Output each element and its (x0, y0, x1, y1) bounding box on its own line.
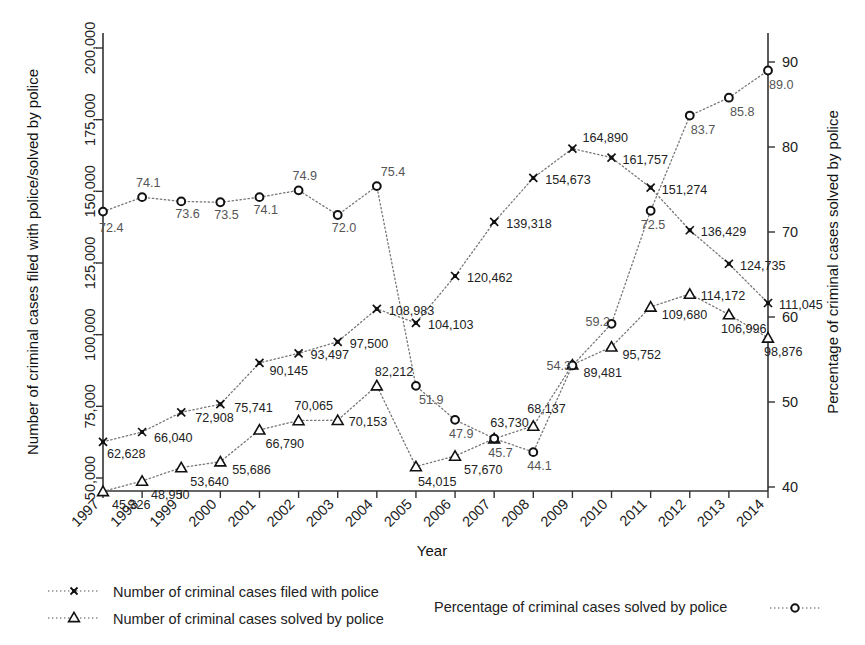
data-point-label: 72,908 (195, 411, 234, 425)
data-point-x-marker (649, 186, 653, 190)
y-tick-label-right: 80 (782, 139, 798, 155)
data-point-label: 161,757 (623, 153, 669, 167)
x-tick-label: 2008 (498, 496, 532, 530)
data-point-x-marker (766, 301, 770, 305)
legend-item-percentage[interactable]: Percentage of criminal cases solved by p… (434, 599, 820, 615)
x-tick-label: 2001 (224, 496, 258, 530)
data-point-label: 57,670 (464, 463, 503, 477)
data-point-circle-marker (138, 193, 146, 201)
data-point-label: 62,628 (107, 447, 146, 461)
data-point-circle-marker (412, 382, 420, 390)
data-point-label: 97,500 (350, 337, 389, 351)
legend-item-filed[interactable]: Number of criminal cases filed with poli… (48, 584, 379, 600)
y-axis-right-title: Percentage of criminal cases solved by p… (824, 110, 841, 414)
data-point-label: 73.6 (175, 207, 200, 221)
data-point-triangle-marker (450, 451, 461, 460)
data-point-label: 63,730 (490, 416, 529, 430)
y-tick-label-left: 100,000 (82, 308, 98, 360)
data-point-label: 48,950 (151, 488, 190, 502)
data-point-x-marker (492, 220, 496, 224)
y-tick-label-right: 40 (782, 479, 798, 495)
data-point-label: 51.9 (419, 393, 444, 407)
data-point-label: 45.7 (488, 446, 513, 460)
data-point-x-marker (257, 361, 261, 365)
data-point-label: 90,145 (269, 364, 308, 378)
data-point-circle-marker (725, 94, 733, 102)
data-point-triangle-marker (606, 342, 617, 351)
data-point-label: 95,752 (623, 348, 662, 362)
data-point-label: 59.2 (586, 315, 611, 329)
data-point-x-marker (140, 430, 144, 434)
data-point-label: 98,876 (764, 345, 803, 359)
data-point-circle-marker (373, 182, 381, 190)
data-point-circle-marker (256, 193, 264, 201)
data-point-label: 75,741 (234, 401, 273, 415)
data-point-label: 104,103 (428, 318, 474, 332)
data-point-circle-marker (764, 67, 772, 75)
data-point-x-marker (531, 176, 535, 180)
y-tick-label-left: 150,000 (82, 165, 98, 217)
data-point-label: 68,137 (527, 402, 566, 416)
data-point-label: 72.4 (99, 221, 124, 235)
y-tick-label-right: 90 (782, 54, 798, 70)
y-tick-label-left: 75,000 (82, 384, 98, 428)
data-point-x-marker (453, 274, 457, 278)
x-tick-label: 2009 (537, 496, 571, 530)
data-point-x-marker (297, 351, 301, 355)
x-tick-label: 2013 (694, 496, 728, 530)
data-point-x-marker (375, 307, 379, 311)
data-point-circle-marker (686, 112, 694, 120)
data-point-label: 72.0 (332, 221, 357, 235)
data-point-label: 45,326 (112, 498, 151, 512)
data-point-circle-marker (451, 416, 459, 424)
data-point-label: 53,640 (190, 475, 229, 489)
x-tick-label: 2012 (655, 496, 689, 530)
data-point-x-marker (336, 340, 340, 344)
data-point-triangle-marker (215, 457, 226, 466)
data-point-label: 74.9 (293, 169, 318, 183)
data-point-x-marker (218, 402, 222, 406)
triangle-marker-icon (69, 612, 80, 621)
y-tick-label-left: 200,000 (82, 22, 98, 74)
data-point-x-marker (688, 228, 692, 232)
legend: Number of criminal cases filed with poli… (48, 584, 820, 627)
x-tick-label: 2014 (733, 496, 767, 530)
legend-item-solved[interactable]: Number of criminal cases solved by polic… (48, 611, 384, 627)
y-axis-left-ticks: 50,00075,000100,000125,000150,000175,000… (82, 22, 103, 500)
data-point-label: 114,172 (701, 289, 746, 303)
data-point-triangle-marker (684, 289, 695, 298)
data-point-label: 93,497 (311, 348, 350, 362)
y-tick-label-left: 50,000 (82, 456, 98, 500)
data-point-label: 120,462 (467, 271, 513, 285)
data-point-label: 66,040 (154, 431, 193, 445)
data-point-label: 85.8 (730, 105, 755, 119)
data-point-circle-marker (177, 198, 185, 206)
data-point-label: 73.5 (214, 208, 239, 222)
y-tick-label-right: 50 (782, 394, 798, 410)
data-point-label: 154,673 (545, 173, 591, 187)
data-point-label: 83.7 (691, 123, 716, 137)
data-point-label: 54.3 (546, 359, 571, 373)
data-point-x-marker (610, 156, 614, 160)
data-point-label: 82,212 (375, 365, 414, 379)
data-point-x-marker (179, 410, 183, 414)
x-axis-title: Year (417, 542, 447, 559)
data-point-label: 55,686 (232, 463, 271, 477)
x-tick-label: 2011 (616, 496, 649, 529)
data-point-label: 47.9 (449, 427, 474, 441)
data-point-label: 109,680 (662, 308, 708, 322)
data-point-label: 72.5 (641, 218, 666, 232)
x-tick-label: 2002 (264, 496, 298, 530)
data-point-circle-marker (647, 207, 655, 215)
circle-marker-icon (791, 604, 798, 611)
y-axis-left-title: Number of criminal cases filed with poli… (24, 69, 41, 455)
data-labels-layer: 62,62866,04072,90875,74190,14593,49797,5… (99, 78, 823, 513)
data-point-label: 75.4 (381, 165, 406, 179)
y-axis-right-ticks: 405060708090 (768, 54, 798, 495)
data-point-label: 151,274 (662, 183, 708, 197)
data-point-label: 111,045 (779, 298, 823, 312)
data-point-circle-marker (334, 211, 342, 219)
data-point-label: 139,318 (506, 217, 552, 231)
legend-label-percentage: Percentage of criminal cases solved by p… (434, 599, 727, 615)
data-point-circle-marker (490, 435, 498, 443)
